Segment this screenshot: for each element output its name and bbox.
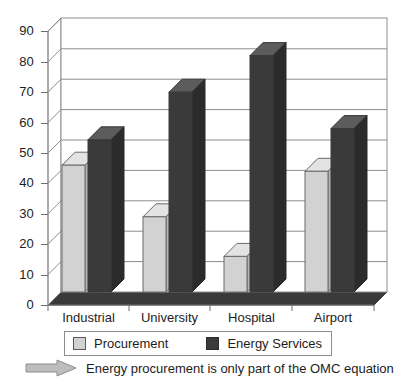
y-tick-label-80: 80 <box>8 54 34 69</box>
cat-label-industrial: Industrial <box>48 310 129 325</box>
legend-label-procurement: Procurement <box>94 336 168 351</box>
legend-label-energy-services: Energy Services <box>227 336 322 351</box>
legend-entry-energy-services: Energy Services <box>206 336 322 351</box>
left-wall <box>48 18 61 305</box>
y-tick-mark <box>41 183 48 184</box>
y-tick-mark <box>41 244 48 245</box>
floor-slab <box>48 292 387 305</box>
legend-entry-procurement: Procurement <box>73 336 168 351</box>
legend-swatch-energy-services-icon <box>206 337 219 350</box>
y-tick-mark <box>41 92 48 93</box>
cat-label-university: University <box>129 310 210 325</box>
y-tick-mark <box>41 62 48 63</box>
y-tick-mark <box>41 153 48 154</box>
chart-3d-frame <box>0 0 397 320</box>
right-arrow-icon <box>24 359 78 377</box>
y-tick-label-20: 20 <box>8 236 34 251</box>
chart-figure: 0 10 20 30 40 50 60 70 80 90 <box>0 0 397 381</box>
back-wall <box>61 18 387 292</box>
y-tick-label-10: 10 <box>8 267 34 282</box>
y-tick-mark <box>41 214 48 215</box>
y-tick-label-50: 50 <box>8 145 34 160</box>
caption-text: Energy procurement is only part of the O… <box>86 361 394 376</box>
cat-label-airport: Airport <box>292 310 374 325</box>
y-tick-mark <box>41 305 48 306</box>
y-tick-mark <box>41 123 48 124</box>
legend-swatch-procurement-icon <box>73 337 86 350</box>
y-tick-mark <box>41 275 48 276</box>
y-tick-label-60: 60 <box>8 115 34 130</box>
chart-legend: Procurement Energy Services <box>64 331 332 356</box>
y-tick-label-40: 40 <box>8 175 34 190</box>
cat-label-hospital: Hospital <box>211 310 292 325</box>
y-tick-label-30: 30 <box>8 206 34 221</box>
y-tick-label-0: 0 <box>8 297 34 312</box>
chart-caption: Energy procurement is only part of the O… <box>24 359 394 377</box>
y-tick-label-70: 70 <box>8 84 34 99</box>
plot-area: 0 10 20 30 40 50 60 70 80 90 <box>0 0 397 320</box>
y-tick-label-90: 90 <box>8 23 34 38</box>
y-tick-mark <box>41 31 48 32</box>
